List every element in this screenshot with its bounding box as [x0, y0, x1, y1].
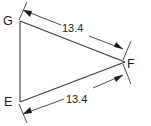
dimension-label-gf: 13.4 — [61, 23, 84, 34]
geometry-figure: G F E 13.4 13.4 — [0, 0, 151, 126]
arrowhead-gf-start — [23, 10, 32, 17]
vertex-label-e: E — [4, 96, 12, 109]
dimension-label-ef: 13.4 — [65, 94, 88, 105]
arrowhead-ef-start — [23, 107, 32, 114]
vertex-label-g: G — [3, 15, 13, 28]
arrowhead-gf-end — [114, 42, 123, 49]
vertex-label-f: F — [127, 58, 135, 71]
arrowhead-ef-end — [114, 75, 123, 82]
